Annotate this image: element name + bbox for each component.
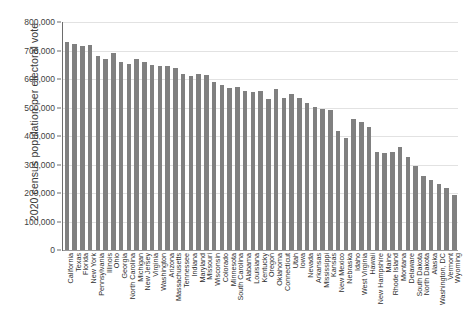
bar-slot[interactable] (210, 22, 218, 250)
bar[interactable] (80, 46, 85, 250)
bar[interactable] (258, 91, 263, 250)
bar-slot[interactable] (272, 22, 280, 250)
bar-slot[interactable] (125, 22, 133, 250)
bar-slot[interactable] (319, 22, 327, 250)
bar[interactable] (72, 44, 77, 250)
bar[interactable] (367, 127, 372, 250)
bar-slot[interactable] (133, 22, 141, 250)
bar[interactable] (227, 88, 232, 250)
bar-slot[interactable] (63, 22, 71, 250)
bar[interactable] (127, 64, 132, 250)
bar-slot[interactable] (381, 22, 389, 250)
bar-slot[interactable] (296, 22, 304, 250)
bar-slot[interactable] (226, 22, 234, 250)
bar[interactable] (328, 110, 333, 250)
bar[interactable] (189, 76, 194, 250)
bar[interactable] (444, 188, 449, 250)
bar-slot[interactable] (203, 22, 211, 250)
bar[interactable] (344, 138, 349, 250)
bar-slot[interactable] (102, 22, 110, 250)
bar-slot[interactable] (342, 22, 350, 250)
bar[interactable] (150, 65, 155, 250)
bar-slot[interactable] (71, 22, 79, 250)
bar[interactable] (220, 85, 225, 250)
bar-slot[interactable] (234, 22, 242, 250)
bar[interactable] (421, 176, 426, 250)
bar[interactable] (243, 91, 248, 250)
bar-slot[interactable] (79, 22, 87, 250)
bar-slot[interactable] (195, 22, 203, 250)
bar[interactable] (204, 75, 209, 250)
bar-slot[interactable] (86, 22, 94, 250)
bar-slot[interactable] (420, 22, 428, 250)
bar-slot[interactable] (443, 22, 451, 250)
bar-slot[interactable] (311, 22, 319, 250)
bar-slot[interactable] (257, 22, 265, 250)
bar-slot[interactable] (110, 22, 118, 250)
bar[interactable] (119, 62, 124, 250)
bar-slot[interactable] (265, 22, 273, 250)
bar[interactable] (212, 82, 217, 250)
bar[interactable] (111, 53, 116, 250)
bar[interactable] (196, 74, 201, 250)
bar[interactable] (297, 98, 302, 250)
bar[interactable] (429, 180, 434, 250)
bar[interactable] (406, 157, 411, 250)
bar[interactable] (359, 122, 364, 250)
bar-slot[interactable] (427, 22, 435, 250)
bar[interactable] (336, 131, 341, 250)
bar[interactable] (305, 103, 310, 250)
bar[interactable] (320, 109, 325, 250)
bar-slot[interactable] (373, 22, 381, 250)
bar[interactable] (452, 195, 457, 250)
bar[interactable] (134, 59, 139, 250)
bar-slot[interactable] (280, 22, 288, 250)
bar-slot[interactable] (218, 22, 226, 250)
bar[interactable] (88, 45, 93, 250)
bar[interactable] (96, 56, 101, 250)
bar[interactable] (235, 87, 240, 250)
bar-slot[interactable] (404, 22, 412, 250)
bar[interactable] (313, 107, 318, 250)
bar-slot[interactable] (303, 22, 311, 250)
bar[interactable] (65, 42, 70, 250)
bar[interactable] (289, 94, 294, 250)
bar[interactable] (251, 92, 256, 250)
bar-slot[interactable] (288, 22, 296, 250)
bar-slot[interactable] (451, 22, 459, 250)
bar[interactable] (274, 89, 279, 250)
bar[interactable] (142, 62, 147, 250)
bar[interactable] (165, 66, 170, 250)
bar[interactable] (181, 74, 186, 250)
bar[interactable] (398, 147, 403, 250)
bar[interactable] (173, 68, 178, 250)
bar-slot[interactable] (334, 22, 342, 250)
bar-slot[interactable] (94, 22, 102, 250)
bar[interactable] (390, 152, 395, 250)
bar-slot[interactable] (141, 22, 149, 250)
bar[interactable] (437, 184, 442, 250)
bar[interactable] (266, 99, 271, 250)
bar[interactable] (351, 119, 356, 250)
bar[interactable] (382, 153, 387, 250)
bar[interactable] (282, 98, 287, 250)
bar-slot[interactable] (350, 22, 358, 250)
bar-slot[interactable] (241, 22, 249, 250)
bar-slot[interactable] (365, 22, 373, 250)
bar-slot[interactable] (148, 22, 156, 250)
bar-slot[interactable] (389, 22, 397, 250)
bar-slot[interactable] (327, 22, 335, 250)
bar-slot[interactable] (412, 22, 420, 250)
bar[interactable] (375, 152, 380, 250)
bar-slot[interactable] (179, 22, 187, 250)
bar-slot[interactable] (164, 22, 172, 250)
bar-slot[interactable] (156, 22, 164, 250)
bar-slot[interactable] (187, 22, 195, 250)
bar-slot[interactable] (249, 22, 257, 250)
bar-slot[interactable] (117, 22, 125, 250)
bar-slot[interactable] (172, 22, 180, 250)
bar[interactable] (103, 59, 108, 250)
bar-slot[interactable] (396, 22, 404, 250)
bar-slot[interactable] (358, 22, 366, 250)
bar-slot[interactable] (435, 22, 443, 250)
